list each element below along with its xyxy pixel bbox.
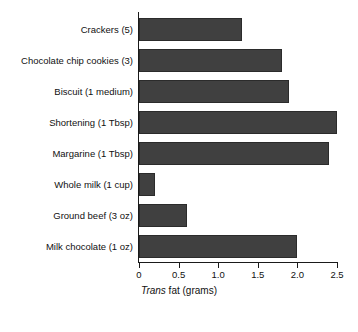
trans-fat-bar-chart: Crackers (5)Chocolate chip cookies (3)Bi… (0, 0, 358, 332)
x-axis-tick-label: 2.5 (330, 270, 343, 280)
x-axis-tick-label: 0 (136, 270, 141, 280)
bar-row (139, 45, 337, 76)
x-axis-tick-mark (179, 263, 180, 268)
category-label: Margarine (1 Tbsp) (0, 149, 133, 159)
category-label: Biscuit (1 medium) (0, 87, 133, 97)
category-label: Whole milk (1 cup) (0, 180, 133, 190)
category-label: Milk chocolate (1 oz) (0, 242, 133, 252)
x-axis-tick-label: 2.0 (291, 270, 304, 280)
bar (139, 111, 337, 134)
x-axis-title-italic-part: Trans (141, 285, 166, 296)
bar (139, 173, 155, 196)
x-axis-tick-mark (139, 263, 140, 268)
bar (139, 142, 329, 165)
x-axis-title-rest: fat (grams) (166, 285, 217, 296)
x-axis-tick-mark (297, 263, 298, 268)
bar (139, 204, 187, 227)
x-axis-tick-label: 0.5 (172, 270, 185, 280)
bar (139, 49, 282, 72)
category-label: Crackers (5) (0, 25, 133, 35)
bar (139, 80, 289, 103)
bar-row (139, 107, 337, 138)
bar-row (139, 231, 337, 262)
plot-area (139, 14, 337, 262)
x-axis-tick-label: 1.5 (251, 270, 264, 280)
x-axis-title: Trans fat (grams) (0, 285, 358, 296)
x-axis-tick-mark (218, 263, 219, 268)
bar (139, 18, 242, 41)
category-label: Shortening (1 Tbsp) (0, 118, 133, 128)
x-axis-line (138, 262, 338, 263)
category-label: Chocolate chip cookies (3) (0, 56, 133, 66)
bar-row (139, 138, 337, 169)
x-axis-tick-mark (258, 263, 259, 268)
bar (139, 235, 297, 258)
x-axis-tick-mark (337, 263, 338, 268)
bar-row (139, 14, 337, 45)
bar-row (139, 200, 337, 231)
category-label: Ground beef (3 oz) (0, 211, 133, 221)
x-axis-tick-label: 1.0 (212, 270, 225, 280)
bar-row (139, 76, 337, 107)
bar-row (139, 169, 337, 200)
